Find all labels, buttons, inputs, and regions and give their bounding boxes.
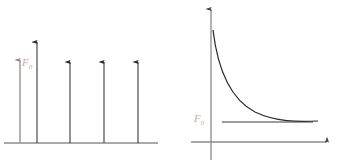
exponential-decay-curve: [213, 30, 318, 121]
right-label-symbol: F: [194, 112, 201, 124]
right-panel-force-label: F0: [194, 113, 204, 127]
right-panel-group: [191, 9, 327, 160]
right-label-subscript: 0: [201, 119, 205, 127]
physics-figure-two-panel: [0, 0, 339, 168]
left-panel-force-label: F0: [22, 57, 32, 71]
left-label-subscript: 0: [29, 63, 33, 71]
left-label-symbol: F: [22, 56, 29, 68]
